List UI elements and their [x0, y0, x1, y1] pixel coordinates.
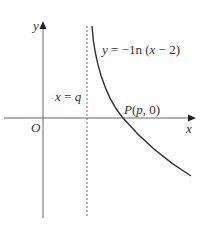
origin-label: O	[31, 120, 41, 135]
function-graph-diagram: y x O x = q y = −1n (x − 2) P(p, 0)	[0, 0, 202, 228]
point-p-label: P(p, 0)	[123, 102, 160, 117]
y-axis-arrow-icon	[40, 21, 47, 29]
x-axis-label: x	[185, 121, 192, 136]
asymptote-label: x = q	[54, 89, 82, 104]
y-axis-label: y	[31, 18, 39, 33]
curve-equation-label: y = −1n (x − 2)	[100, 42, 180, 57]
